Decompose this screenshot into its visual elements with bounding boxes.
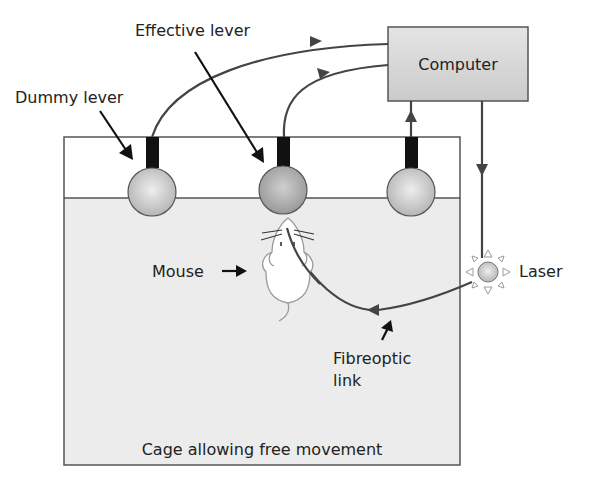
lever-ball bbox=[259, 166, 307, 214]
lever-bar bbox=[277, 137, 290, 168]
fibreoptic-label-line1: Fibreoptic bbox=[333, 349, 411, 368]
lever-bar bbox=[405, 137, 418, 168]
computer-label: Computer bbox=[418, 55, 498, 74]
cage-floor bbox=[64, 198, 460, 465]
computer: Computer bbox=[388, 27, 528, 101]
lever-ball bbox=[128, 168, 176, 216]
cage-label: Cage allowing free movement bbox=[142, 440, 383, 459]
laser-core bbox=[478, 262, 498, 282]
wire-effective-to-computer bbox=[284, 65, 388, 137]
arrow-down-icon bbox=[476, 164, 488, 176]
dummy-lever-label: Dummy lever bbox=[15, 88, 124, 107]
arrow-right-icon bbox=[310, 36, 322, 47]
lever-bar bbox=[146, 137, 159, 168]
mouse-label: Mouse bbox=[152, 262, 204, 281]
diagram-canvas: Computer bbox=[0, 0, 596, 485]
lever-ball bbox=[387, 168, 435, 216]
arrow-up-icon bbox=[405, 110, 417, 122]
laser-label: Laser bbox=[519, 262, 563, 281]
fibreoptic-label-line2: link bbox=[333, 371, 362, 390]
laser-icon bbox=[466, 250, 510, 294]
wire-dummy-to-computer bbox=[152, 44, 388, 137]
effective-lever-label: Effective lever bbox=[135, 21, 250, 40]
